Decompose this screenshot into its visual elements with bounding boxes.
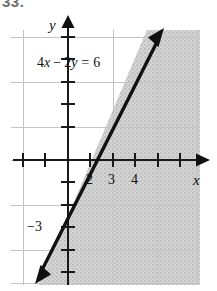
x-tick-label-3: 3 <box>108 172 115 187</box>
eq-equals: = <box>81 55 89 70</box>
y-axis-arrow <box>62 15 75 28</box>
eq-coefficient-x: 4 <box>37 55 44 70</box>
y-axis-label: y <box>47 17 56 33</box>
eq-minus: − <box>53 55 61 70</box>
eq-var-y: y <box>69 55 78 70</box>
eq-coefficient-y: 2 <box>64 55 71 70</box>
exercise-number: 33. <box>2 0 24 10</box>
svg-text:4x−2y=6: 4x−2y=6 <box>37 55 100 70</box>
graph-figure: 33. <box>0 0 217 291</box>
coordinate-plane: y x 4x−2y=6 2 3 4 −3 <box>0 0 217 291</box>
x-axis-label: x <box>192 172 200 188</box>
x-tick-label-4: 4 <box>131 172 138 187</box>
shaded-region <box>36 0 217 291</box>
x-axis-arrow <box>196 154 210 167</box>
x-tick-label-2: 2 <box>86 172 93 187</box>
equation-label: 4x−2y=6 <box>37 55 100 70</box>
y-tick-label-neg3: −3 <box>27 219 42 234</box>
eq-var-x: x <box>43 55 51 70</box>
eq-rhs: 6 <box>93 55 100 70</box>
